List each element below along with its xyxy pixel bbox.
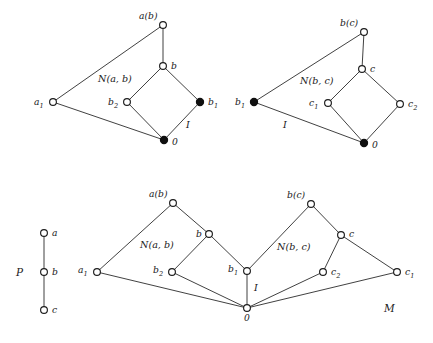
- diagram-edge: [164, 102, 200, 140]
- diagram-node-panel-nab-zero: [160, 136, 167, 143]
- diagram-edge: [247, 272, 323, 308]
- diagram-node-panel-nab-a1: [50, 99, 57, 106]
- interval-label-panel-nbc: I: [282, 119, 287, 130]
- diagram-edge: [172, 272, 247, 308]
- lattice-diagram-canvas: a(b)bb2b10a1N(a, b)Ib(c)cc1c20b1N(b, c)I…: [0, 0, 433, 343]
- diagram-edge: [362, 32, 364, 69]
- diagram-node-panel-p-c: [41, 307, 48, 314]
- diagram-node-panel-nbc-zero: [360, 139, 367, 146]
- diagram-node-panel-nbc-bc: [361, 29, 368, 36]
- diagram-node-panel-nab-b2: [124, 99, 131, 106]
- labels-layer: a(b)bb2b10a1N(a, b)Ib(c)cc1c20b1N(b, c)I…: [15, 10, 417, 323]
- node-label-panel-m-b2: b2: [153, 264, 163, 278]
- diagram-edge: [163, 66, 200, 102]
- region-label-panel-m-left: N(a, b): [139, 239, 174, 250]
- diagram-node-panel-m-b: [206, 231, 213, 238]
- region-label-panel-nab: N(a, b): [97, 73, 132, 84]
- region-label-panel-nbc: N(b, c): [299, 75, 334, 86]
- diagram-node-panel-m-zero: [244, 305, 251, 312]
- diagram-node-panel-nbc-b1: [250, 98, 257, 105]
- diagram-edge: [172, 234, 209, 272]
- diagram-node-panel-nbc-c1: [325, 100, 332, 107]
- node-label-panel-m-a1: a1: [78, 264, 88, 278]
- node-label-panel-nbc-bc: b(c): [340, 17, 359, 28]
- interval-label-panel-m: I: [253, 282, 258, 293]
- diagram-node-panel-m-a1: [94, 269, 101, 276]
- diagram-edge: [364, 104, 400, 143]
- diagram-edge: [53, 102, 164, 140]
- structure-label-panel-m: M: [383, 302, 395, 314]
- diagram-edge: [53, 25, 163, 102]
- node-label-panel-m-b: b: [196, 228, 202, 239]
- diagram-node-panel-p-a: [41, 230, 48, 237]
- diagram-edge: [328, 103, 364, 143]
- node-label-panel-nbc-c1: c1: [309, 97, 318, 111]
- diagram-node-panel-m-bc: [308, 201, 315, 208]
- node-label-panel-nbc-zero: 0: [372, 139, 378, 150]
- node-label-panel-p-c: c: [52, 304, 57, 315]
- diagram-node-panel-m-b1: [244, 268, 251, 275]
- diagram-edge: [341, 235, 397, 272]
- node-label-panel-m-zero: 0: [244, 312, 250, 323]
- diagram-node-panel-nab-b: [160, 63, 167, 70]
- edges-layer: [44, 25, 400, 310]
- figure-root: a(b)bb2b10a1N(a, b)Ib(c)cc1c20b1N(b, c)I…: [0, 0, 433, 343]
- node-label-panel-m-c: c: [349, 228, 354, 239]
- diagram-node-panel-m-c1: [394, 269, 401, 276]
- diagram-node-panel-p-b: [41, 269, 48, 276]
- diagram-node-panel-nbc-c2: [397, 101, 404, 108]
- node-label-panel-nab-b: b: [171, 60, 177, 71]
- node-label-panel-p-b: b: [52, 266, 58, 277]
- diagram-edge: [127, 66, 163, 102]
- diagram-edge: [97, 203, 173, 272]
- nodes-layer: [41, 22, 404, 314]
- diagram-node-panel-m-ab: [170, 200, 177, 207]
- node-label-panel-nbc-b1: b1: [235, 96, 245, 110]
- node-label-panel-m-b1: b1: [228, 263, 238, 277]
- node-label-panel-nbc-c: c: [370, 63, 375, 74]
- diagram-edge: [254, 32, 364, 102]
- diagram-edge: [97, 272, 247, 308]
- region-label-panel-m-right: N(b, c): [276, 241, 311, 252]
- node-label-panel-m-ab: a(b): [149, 188, 168, 199]
- node-label-panel-m-bc: b(c): [287, 189, 306, 200]
- node-label-panel-nab-b2: b2: [108, 96, 118, 110]
- diagram-node-panel-nab-b1: [196, 98, 203, 105]
- node-label-panel-nab-a1: a1: [34, 96, 44, 110]
- node-label-panel-nab-ab: a(b): [139, 10, 158, 21]
- diagram-edge: [173, 203, 209, 234]
- diagram-node-panel-m-b2: [169, 269, 176, 276]
- diagram-edge: [247, 272, 397, 308]
- structure-label-panel-p: P: [15, 266, 24, 278]
- diagram-node-panel-m-c2: [320, 269, 327, 276]
- diagram-edge: [311, 204, 341, 235]
- diagram-node-panel-m-c: [338, 232, 345, 239]
- interval-label-panel-nab: I: [185, 119, 190, 130]
- node-label-panel-nab-b1: b1: [208, 96, 218, 110]
- diagram-edge: [247, 204, 311, 271]
- diagram-node-panel-nab-ab: [160, 22, 167, 29]
- node-label-panel-nab-zero: 0: [172, 136, 178, 147]
- diagram-edge: [127, 102, 164, 140]
- node-label-panel-m-c1: c1: [405, 266, 414, 280]
- node-label-panel-nbc-c2: c2: [408, 98, 417, 112]
- node-label-panel-m-c2: c2: [331, 266, 340, 280]
- diagram-node-panel-nbc-c: [359, 66, 366, 73]
- node-label-panel-p-a: a: [52, 227, 57, 238]
- diagram-edge: [254, 102, 364, 143]
- diagram-edge: [362, 69, 400, 104]
